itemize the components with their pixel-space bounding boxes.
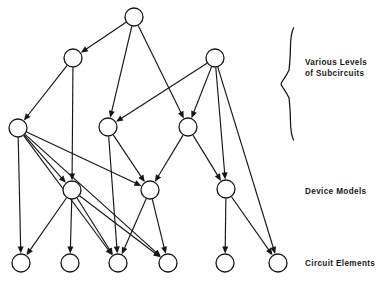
label-various-levels-of-subcircuits: Various Levels of Subcircuits <box>305 57 367 79</box>
graph-node[interactable] <box>63 181 81 199</box>
curly-brace-icon <box>281 28 294 140</box>
graph-node[interactable] <box>159 254 177 272</box>
graph-edge <box>24 135 63 180</box>
graph-node[interactable] <box>99 118 117 136</box>
arrow-head-icon <box>155 174 161 182</box>
graph-edge <box>218 67 274 250</box>
arrow-head-icon <box>138 175 144 182</box>
graph-node[interactable] <box>125 8 143 26</box>
diagram-canvas: Various Levels of Subcircuits Device Mod… <box>0 0 391 284</box>
graph-edge <box>157 135 183 178</box>
arrow-head-icon <box>191 111 197 119</box>
arrow-head-icon <box>109 110 115 118</box>
arrow-head-icon <box>116 116 124 122</box>
graph-edge <box>111 26 132 114</box>
arrow-head-icon <box>114 246 120 253</box>
graph-node[interactable] <box>217 180 235 198</box>
graph-node[interactable] <box>141 181 159 199</box>
graph-svg <box>0 0 391 284</box>
graph-edge <box>231 197 270 252</box>
graph-edge <box>123 199 146 251</box>
graph-node[interactable] <box>206 49 224 67</box>
graph-edge <box>109 136 117 249</box>
brace-layer <box>281 28 294 140</box>
arrow-head-icon <box>81 46 88 52</box>
graph-edge <box>193 67 212 115</box>
graph-node[interactable] <box>269 254 287 272</box>
graph-edge <box>193 135 219 178</box>
graph-node[interactable] <box>9 119 27 137</box>
graph-edge <box>80 196 158 255</box>
graph-node[interactable] <box>64 49 82 67</box>
graph-edge <box>225 199 226 250</box>
graph-node[interactable] <box>216 254 234 272</box>
graph-node[interactable] <box>179 118 197 136</box>
graph-node[interactable] <box>61 254 79 272</box>
arrow-head-icon <box>161 246 167 254</box>
graph-edge <box>70 200 71 250</box>
graph-edge <box>72 68 73 177</box>
arrow-head-icon <box>222 172 228 179</box>
label-device-models: Device Models <box>305 186 366 197</box>
graph-edge <box>25 134 158 254</box>
arrow-head-icon <box>222 246 228 253</box>
graph-node[interactable] <box>109 254 127 272</box>
arrow-head-icon <box>67 246 73 253</box>
graph-edge <box>152 199 165 250</box>
graph-edge <box>138 26 182 115</box>
graph-edge <box>113 135 142 179</box>
graph-edge <box>27 132 138 184</box>
edges-layer <box>18 22 276 257</box>
label-circuit-elements: Circuit Elements <box>305 258 375 269</box>
graph-edge <box>18 138 20 250</box>
nodes-layer <box>9 8 287 272</box>
arrow-head-icon <box>18 246 24 253</box>
graph-edge <box>84 22 126 50</box>
arrow-head-icon <box>215 173 221 181</box>
graph-edge <box>29 198 67 252</box>
graph-edge <box>26 65 67 117</box>
graph-edge <box>216 67 225 175</box>
arrow-head-icon <box>24 113 31 120</box>
graph-node[interactable] <box>12 254 30 272</box>
arrow-head-icon <box>26 248 32 255</box>
